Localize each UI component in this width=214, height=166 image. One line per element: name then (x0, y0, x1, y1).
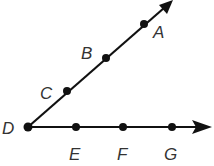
label-g: G (164, 145, 177, 164)
point-e (72, 123, 80, 131)
label-e: E (69, 145, 81, 164)
point-b (102, 54, 110, 62)
point-g (168, 123, 176, 131)
point-d (24, 123, 33, 132)
point-a (140, 20, 148, 28)
point-f (119, 123, 127, 131)
rays-diagram: A B C D E F G (0, 0, 214, 166)
label-b: B (81, 44, 92, 63)
label-d: D (2, 119, 14, 138)
label-f: F (117, 145, 129, 164)
point-c (63, 87, 71, 95)
label-c: C (40, 84, 53, 103)
label-a: A (152, 23, 164, 42)
